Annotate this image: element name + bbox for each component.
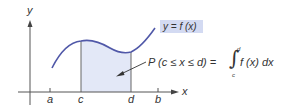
probability-lhs: P (c ≤ x ≤ d) = [148, 56, 216, 68]
probability-density-diagram: y x a c d b y = f (x) P (c ≤ x ≤ d) = ∫ … [0, 0, 285, 110]
integral-lower-limit: c [232, 72, 235, 78]
shaded-region [81, 40, 131, 92]
curve-label: y = f (x) [163, 21, 197, 32]
tick-label-b: b [155, 94, 161, 105]
x-axis-label: x [182, 86, 188, 97]
integral-upper-limit: d [237, 46, 240, 52]
x-axis-arrow-icon [171, 90, 179, 95]
tick-label-c: c [78, 94, 84, 105]
tick-label-d: d [128, 94, 134, 105]
integrand: f (x) dx [240, 56, 274, 68]
tick-label-a: a [47, 94, 53, 105]
diagram-canvas [0, 0, 285, 110]
y-axis-label: y [27, 5, 33, 16]
y-axis-arrow-icon [28, 20, 33, 27]
